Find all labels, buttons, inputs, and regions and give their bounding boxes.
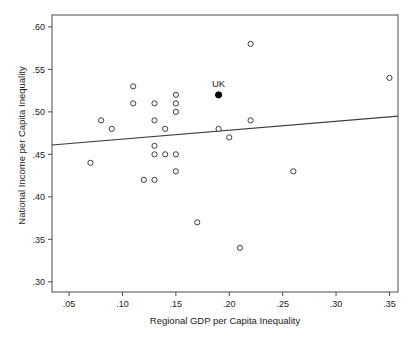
data-point xyxy=(248,118,253,123)
data-point xyxy=(152,118,157,123)
data-point xyxy=(152,143,157,148)
data-point xyxy=(291,169,296,174)
x-axis-tick-label: .35 xyxy=(383,299,396,309)
y-axis-tick-label: .40 xyxy=(32,192,45,202)
data-point xyxy=(227,135,232,140)
x-axis-tick-label: .25 xyxy=(276,299,289,309)
y-axis-tick-label: .55 xyxy=(32,65,45,75)
data-point xyxy=(173,109,178,114)
data-point xyxy=(141,177,146,182)
data-point xyxy=(195,220,200,225)
data-point xyxy=(173,101,178,106)
data-point xyxy=(99,118,104,123)
data-point xyxy=(131,101,136,106)
data-point xyxy=(152,101,157,106)
y-axis-tick-label: .35 xyxy=(32,235,45,245)
x-axis-tick-label: .30 xyxy=(330,299,343,309)
data-point xyxy=(152,177,157,182)
data-point xyxy=(109,126,114,131)
data-point xyxy=(387,75,392,80)
data-point xyxy=(163,126,168,131)
data-point xyxy=(131,84,136,89)
x-axis-tick-label: .20 xyxy=(223,299,236,309)
data-point-uk xyxy=(215,92,221,98)
scatter-plot-figure: .05.10.15.20.25.30.35.30.35.40.45.50.55.… xyxy=(0,0,409,337)
y-axis-tick-label: .45 xyxy=(32,150,45,160)
data-point xyxy=(216,126,221,131)
data-point xyxy=(163,152,168,157)
data-point xyxy=(173,92,178,97)
y-axis-tick-label: .30 xyxy=(32,277,45,287)
data-point xyxy=(173,169,178,174)
x-axis-tick-label: .15 xyxy=(170,299,183,309)
data-point xyxy=(248,41,253,46)
plot-frame xyxy=(52,15,398,292)
x-axis-tick-label: .10 xyxy=(116,299,129,309)
data-point xyxy=(88,160,93,165)
x-axis-title: Regional GDP per Capita Inequality xyxy=(52,315,398,326)
x-axis-tick-label: .05 xyxy=(63,299,76,309)
y-axis-tick-label: .50 xyxy=(32,107,45,117)
y-axis-title: National Income per Capita Inequality xyxy=(16,41,27,251)
uk-point-label: UK xyxy=(212,78,226,89)
y-axis-tick-label: .60 xyxy=(32,22,45,32)
data-point xyxy=(173,152,178,157)
plot-canvas: .05.10.15.20.25.30.35.30.35.40.45.50.55.… xyxy=(0,0,409,337)
data-point xyxy=(152,152,157,157)
data-point xyxy=(237,245,242,250)
